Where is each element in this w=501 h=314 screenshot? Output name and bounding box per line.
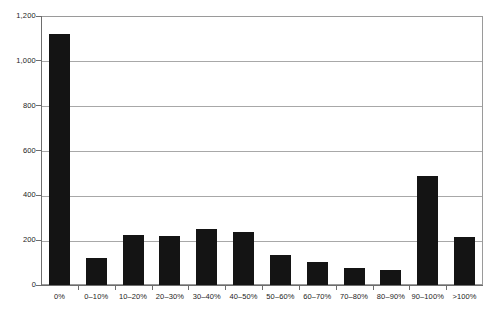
x-axis-label: 10–20% [115,293,152,301]
bar [123,235,144,285]
bar [307,262,328,285]
x-axis-tick [262,286,263,290]
x-axis-tick [336,286,337,290]
x-axis-tick [152,286,153,290]
x-axis-tick [78,286,79,290]
y-axis-label: 400 [2,191,36,199]
y-axis-tick-0 [36,285,41,286]
y-axis-tick-1200 [36,16,41,17]
y-axis-tick-600 [36,150,41,151]
x-axis-label: 70–80% [336,293,373,301]
x-axis-tick [115,286,116,290]
y-axis-label: 800 [2,102,36,110]
bar [86,258,107,285]
x-axis-label: 80–90% [373,293,410,301]
x-axis-label: 0% [41,293,78,301]
x-axis-tick [446,286,447,290]
x-axis-tick [225,286,226,290]
x-axis-label: 50–60% [262,293,299,301]
bar [344,268,365,285]
bar [233,232,254,285]
y-axis-label: 0 [2,281,36,289]
y-axis-tick-1000 [36,60,41,61]
x-axis-label: 40–50% [225,293,262,301]
bar [270,255,291,285]
bar [454,237,475,285]
bar [196,229,217,285]
y-axis-tick-200 [36,240,41,241]
bar-chart: 02004006008001,0001,200 0%0–10%10–20%20–… [0,0,501,314]
y-axis-label: 1,000 [2,57,36,65]
x-axis-label: 60–70% [299,293,336,301]
y-axis-tick-400 [36,195,41,196]
x-axis-label: 20–30% [152,293,189,301]
y-axis-label: 600 [2,147,36,155]
x-axis-label: >100% [446,293,483,301]
y-axis-label: 1,200 [2,12,36,20]
bar [159,236,180,285]
bar [49,34,70,285]
x-axis-label: 90–100% [409,293,446,301]
bar [380,270,401,285]
x-axis-tick [299,286,300,290]
bars-layer [41,16,483,285]
x-axis-label: 30–40% [188,293,225,301]
x-axis-tick [188,286,189,290]
y-axis-label: 200 [2,236,36,244]
bar [417,176,438,285]
x-axis-tick [409,286,410,290]
y-axis-labels: 02004006008001,0001,200 [0,0,36,314]
x-axis-tick [373,286,374,290]
x-axis-label: 0–10% [78,293,115,301]
y-axis-tick-800 [36,105,41,106]
